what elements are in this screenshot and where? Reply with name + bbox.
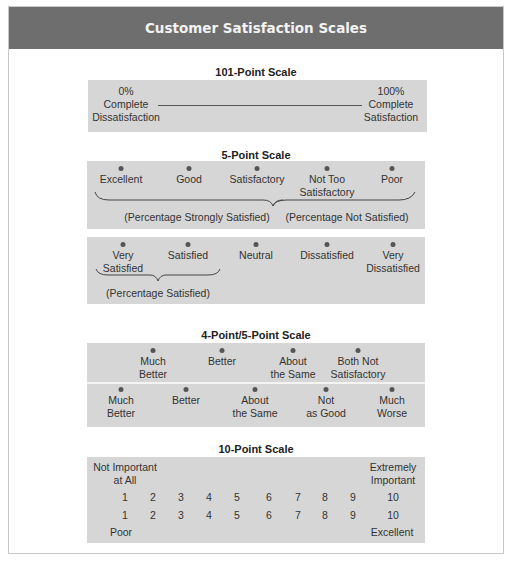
scale5-very-dissatisfied-line2: Dissatisfied bbox=[366, 262, 420, 275]
scale101-left-line2: Complete bbox=[104, 98, 149, 111]
scale10-r1-n3: 3 bbox=[178, 491, 184, 503]
scale45-r1-about-line1: About bbox=[279, 355, 306, 368]
scale45-r1-much-better-line1: Much bbox=[140, 355, 166, 368]
scale-point-dot bbox=[390, 387, 395, 392]
scale-point-dot bbox=[325, 166, 330, 171]
scale45-r1-much-better-line2: Better bbox=[139, 368, 167, 381]
brace-satisfied bbox=[94, 267, 224, 287]
scale10-top-right-line2: Important bbox=[371, 474, 415, 487]
figure-title: Customer Satisfaction Scales bbox=[9, 7, 503, 49]
scale10-top-left-line1: Not Important bbox=[93, 461, 157, 474]
scale-point-dot bbox=[184, 387, 189, 392]
scale5-neutral: Neutral bbox=[239, 249, 273, 262]
scale45-title: 4-Point/5-Point Scale bbox=[9, 329, 503, 341]
scale-point-dot bbox=[391, 242, 396, 247]
scale5-good: Good bbox=[176, 173, 202, 186]
scale10-r1-n5: 5 bbox=[234, 491, 240, 503]
scale101-line bbox=[158, 105, 362, 106]
brace-caption-strongly-satisfied: (Percentage Strongly Satisfied) bbox=[124, 211, 269, 224]
scale-point-dot bbox=[187, 166, 192, 171]
scale45-r2-much-better-line2: Better bbox=[107, 407, 135, 420]
scale10-r1-n7: 7 bbox=[295, 491, 301, 503]
scale10-r2-n7: 7 bbox=[295, 509, 301, 521]
scale5-satisfactory: Satisfactory bbox=[230, 173, 285, 186]
scale101-title: 101-Point Scale bbox=[9, 66, 503, 78]
scale10-r2-n5: 5 bbox=[234, 509, 240, 521]
scale45-r2-about-line2: the Same bbox=[233, 407, 278, 420]
scale10-r2-n10: 10 bbox=[387, 509, 399, 521]
scale10-title: 10-Point Scale bbox=[9, 443, 503, 455]
scale101-left-line1: 0% bbox=[118, 85, 133, 98]
scale-point-dot bbox=[121, 242, 126, 247]
scale5-satisfied: Satisfied bbox=[168, 249, 208, 262]
scale-point-dot bbox=[254, 242, 259, 247]
scale45-divider bbox=[87, 382, 425, 384]
scale45-r2-much-better-line1: Much bbox=[108, 394, 134, 407]
scale101-box: 0% Complete Dissatisfaction 100% Complet… bbox=[88, 80, 427, 132]
scale10-r2-n1: 1 bbox=[122, 509, 128, 521]
scale10-r1-n9: 9 bbox=[350, 491, 356, 503]
scale101-left-line3: Dissatisfaction bbox=[92, 111, 160, 124]
scale45-r1-both-not-line1: Both Not bbox=[338, 355, 379, 368]
scale5-not-too-line1: Not Too bbox=[309, 173, 345, 186]
scale-point-dot bbox=[151, 348, 156, 353]
scale5-dissatisfied: Dissatisfied bbox=[300, 249, 354, 262]
scale101-right-line2: Complete bbox=[369, 98, 414, 111]
scale10-top-right-line1: Extremely bbox=[370, 461, 417, 474]
scale10-r1-n10: 10 bbox=[387, 491, 399, 503]
scale45-r1-better: Better bbox=[208, 355, 236, 368]
figure-frame: Customer Satisfaction Scales 101-Point S… bbox=[8, 6, 504, 554]
scale-point-dot bbox=[186, 242, 191, 247]
brace-caption-not-satisfied: (Percentage Not Satisfied) bbox=[285, 211, 408, 224]
scale45-r1-both-not-line2: Satisfactory bbox=[331, 368, 386, 381]
scale-point-dot bbox=[325, 242, 330, 247]
scale45-box: Much Better Better About the Same Both N… bbox=[87, 343, 425, 427]
scale5-very-dissatisfied-line1: Very bbox=[382, 249, 403, 262]
scale5-title: 5-Point Scale bbox=[9, 149, 503, 161]
scale10-r1-n4: 4 bbox=[206, 491, 212, 503]
scale45-r2-better: Better bbox=[172, 394, 200, 407]
scale-point-dot bbox=[119, 166, 124, 171]
scale10-box: Not Important at All Extremely Important… bbox=[87, 457, 425, 543]
brace-strongly-satisfied bbox=[93, 190, 423, 210]
scale10-bottom-right: Excellent bbox=[371, 526, 414, 539]
scale45-r2-much-worse-line1: Much bbox=[379, 394, 405, 407]
scale45-r2-not-line2: as Good bbox=[306, 407, 346, 420]
scale-point-dot bbox=[291, 348, 296, 353]
scale10-r1-n1: 1 bbox=[122, 491, 128, 503]
brace-caption-satisfied: (Percentage Satisfied) bbox=[106, 287, 210, 300]
scale-point-dot bbox=[356, 348, 361, 353]
scale10-bottom-left: Poor bbox=[110, 526, 132, 539]
scale45-r2-about-line1: About bbox=[241, 394, 268, 407]
scale-point-dot bbox=[255, 166, 260, 171]
scale-point-dot bbox=[119, 387, 124, 392]
scale-point-dot bbox=[220, 348, 225, 353]
scale-point-dot bbox=[390, 166, 395, 171]
scale-point-dot bbox=[324, 387, 329, 392]
scale45-r2-much-worse-line2: Worse bbox=[377, 407, 407, 420]
scale101-right-line3: Satisfaction bbox=[364, 111, 418, 124]
scale5-row2-box: Very Satisfied Satisfied Neutral Dissati… bbox=[87, 237, 425, 304]
scale10-r2-n6: 6 bbox=[266, 509, 272, 521]
scale10-r1-n8: 8 bbox=[322, 491, 328, 503]
scale101-right-line1: 100% bbox=[378, 85, 405, 98]
scale45-r2-not-line1: Not bbox=[318, 394, 334, 407]
scale45-r1-about-line2: the Same bbox=[271, 368, 316, 381]
scale5-very-satisfied-line1: Very bbox=[112, 249, 133, 262]
scale-point-dot bbox=[253, 387, 258, 392]
scale10-r1-n6: 6 bbox=[266, 491, 272, 503]
scale10-r1-n2: 2 bbox=[150, 491, 156, 503]
scale10-top-left-line2: at All bbox=[114, 474, 137, 487]
scale10-r2-n2: 2 bbox=[150, 509, 156, 521]
scale10-r2-n8: 8 bbox=[322, 509, 328, 521]
scale10-r2-n4: 4 bbox=[206, 509, 212, 521]
scale5-excellent: Excellent bbox=[100, 173, 143, 186]
scale5-row1-box: Excellent Good Satisfactory Not Too Sati… bbox=[87, 161, 425, 229]
scale10-r2-n3: 3 bbox=[178, 509, 184, 521]
scale5-poor: Poor bbox=[381, 173, 403, 186]
scale10-r2-n9: 9 bbox=[350, 509, 356, 521]
